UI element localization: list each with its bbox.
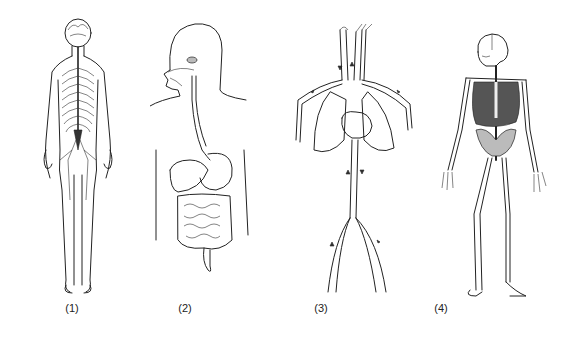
skeletal-system-illustration [430,0,578,300]
panel-label-2: (2) [178,302,191,314]
nervous-system-illustration [28,0,123,300]
panel-label-3: (3) [314,302,327,314]
panel-digestive-system [150,0,280,300]
panel-skeletal-system [430,0,578,300]
panel-label-4: (4) [434,302,447,314]
digestive-system-illustration [150,0,280,300]
circulatory-system-illustration [290,0,440,300]
panel-label-1: (1) [65,302,78,314]
panel-circulatory-system [290,0,440,300]
panel-nervous-system [28,0,123,300]
